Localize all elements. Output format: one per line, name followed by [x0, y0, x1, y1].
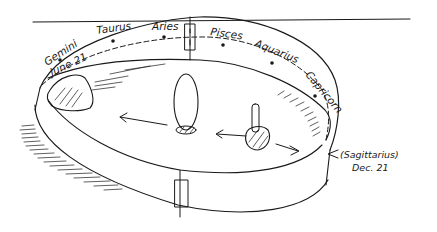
wall-base-front [35, 105, 328, 212]
zodiac-enclosure-diagram: Gemini June 21 Taurus Aries Pisces Aquar… [0, 0, 437, 232]
label-aries: Aries [151, 20, 179, 32]
label-capricorn: Capricorn [303, 69, 345, 116]
right-boulder-hatching [249, 130, 268, 148]
arrow-to-right [276, 144, 299, 155]
label-pisces: Pisces [210, 25, 244, 41]
left-boulder-hatching [55, 88, 82, 107]
label-aquarius: Aquarius [252, 36, 301, 65]
aries-dot [162, 35, 166, 39]
taurus-dot [111, 39, 115, 43]
label-december: Dec. 21 [352, 162, 389, 173]
arrow-to-left [120, 113, 167, 125]
pisces-dot [221, 43, 225, 47]
arrow-upper-left-from-post [216, 130, 246, 138]
label-sagittarius: (Sagittarius) [340, 149, 399, 160]
aquarius-dot [270, 61, 274, 65]
wall-outer-rim [40, 17, 339, 150]
wall-left-edge [35, 88, 40, 110]
left-boulder [47, 75, 93, 111]
inner-wall-shadow-right [278, 91, 320, 136]
bottom-slot-marker [175, 180, 188, 207]
capricorn-dot [313, 94, 317, 98]
standing-stone-oval [174, 74, 198, 130]
horizon-line [33, 19, 410, 22]
inner-wall-shadow-left [92, 64, 165, 90]
wall-front-top [48, 100, 322, 173]
